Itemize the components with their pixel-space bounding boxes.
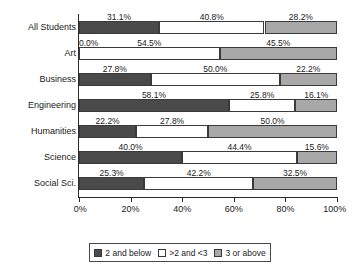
bar-segment [280, 73, 337, 86]
legend-item: 3 or above [214, 248, 265, 258]
chart-row: Business27.8%50.0%22.2% [0, 66, 360, 92]
legend-label: >2 and <3 [169, 248, 207, 258]
x-axis-tick [182, 198, 183, 202]
x-axis-tick-label: 20% [122, 204, 140, 215]
data-label: 40.0% [119, 143, 143, 152]
bar-segment [208, 125, 337, 138]
bar-segment [79, 177, 144, 190]
data-label: 42.2% [187, 169, 211, 178]
data-label: 22.2% [96, 117, 120, 126]
category-label: Business [0, 66, 76, 92]
data-label: 50.0% [260, 117, 284, 126]
category-label: Humanities [0, 118, 76, 144]
x-axis-tick-label: 60% [225, 204, 243, 215]
data-label: 54.5% [137, 39, 161, 48]
stacked-bar: 58.1%25.8%16.1% [79, 99, 337, 112]
data-label: 50.0% [203, 65, 227, 74]
legend-label: 2 and below [105, 248, 151, 258]
chart-row: Science40.0%44.4%15.6% [0, 144, 360, 170]
bar-segment [151, 73, 280, 86]
bar-segment [297, 151, 337, 164]
x-axis-line [78, 197, 338, 198]
bar-segment [79, 99, 229, 112]
data-label: 15.6% [305, 143, 329, 152]
data-label: 44.4% [227, 143, 251, 152]
bar-segment [220, 47, 337, 60]
data-label: 16.1% [304, 91, 328, 100]
stacked-bar: 22.2%27.8%50.0% [79, 125, 337, 138]
stacked-bar: 31.1%40.8%28.2% [79, 21, 337, 34]
legend-label: 3 or above [225, 248, 265, 258]
x-axis-tick [131, 198, 132, 202]
bar-segment [79, 151, 182, 164]
stacked-bar: 27.8%50.0%22.2% [79, 73, 337, 86]
x-axis-tick-label: 40% [173, 204, 191, 215]
bar-segment [182, 151, 297, 164]
bar-segment [229, 99, 296, 112]
category-label: Social Sci. [0, 170, 76, 196]
bar-segment [295, 99, 337, 112]
x-axis-tick [79, 198, 80, 202]
data-label: 58.1% [142, 91, 166, 100]
category-label: Art [0, 40, 76, 66]
bar-segment [79, 21, 159, 34]
data-label: 32.5% [283, 169, 307, 178]
data-label: 40.8% [200, 13, 224, 22]
chart-row: Art0.0%54.5%45.5% [0, 40, 360, 66]
data-label: 22.2% [296, 65, 320, 74]
stacked-bar-chart: All Students31.1%40.8%28.2%Art0.0%54.5%4… [0, 0, 360, 275]
x-axis-tick-label: 0% [74, 204, 87, 215]
bar-segment [159, 21, 264, 34]
data-label: 28.2% [289, 13, 313, 22]
stacked-bar: 0.0%54.5%45.5% [79, 47, 337, 60]
legend-swatch-icon [94, 249, 102, 257]
bar-segment [144, 177, 253, 190]
x-axis-tick [285, 198, 286, 202]
legend-swatch-icon [214, 249, 222, 257]
chart-row: Humanities22.2%27.8%50.0% [0, 118, 360, 144]
category-label: Science [0, 144, 76, 170]
bar-segment [79, 73, 151, 86]
data-label: 25.3% [100, 169, 124, 178]
chart-row: Engineering58.1%25.8%16.1% [0, 92, 360, 118]
x-axis-tick [234, 198, 235, 202]
bar-segment [265, 21, 338, 34]
data-label: 31.1% [107, 13, 131, 22]
bar-segment [79, 47, 220, 60]
category-label: All Students [0, 14, 76, 40]
x-axis-tick [337, 198, 338, 202]
chart-row: All Students31.1%40.8%28.2% [0, 14, 360, 40]
x-axis-tick-label: 100% [323, 204, 346, 215]
stacked-bar: 25.3%42.2%32.5% [79, 177, 337, 190]
x-axis-tick-label: 80% [276, 204, 294, 215]
chart-legend: 2 and below>2 and <33 or above [89, 243, 271, 262]
legend-item: >2 and <3 [158, 248, 207, 258]
legend-item: 2 and below [94, 248, 151, 258]
bar-segment [79, 125, 136, 138]
category-label: Engineering [0, 92, 76, 118]
data-label: 27.8% [103, 65, 127, 74]
data-label: 27.8% [160, 117, 184, 126]
data-label: 25.8% [250, 91, 274, 100]
chart-row: Social Sci.25.3%42.2%32.5% [0, 170, 360, 196]
legend-swatch-icon [158, 249, 166, 257]
data-label: 45.5% [266, 39, 290, 48]
bar-segment [253, 177, 337, 190]
bar-segment [136, 125, 208, 138]
stacked-bar: 40.0%44.4%15.6% [79, 151, 337, 164]
